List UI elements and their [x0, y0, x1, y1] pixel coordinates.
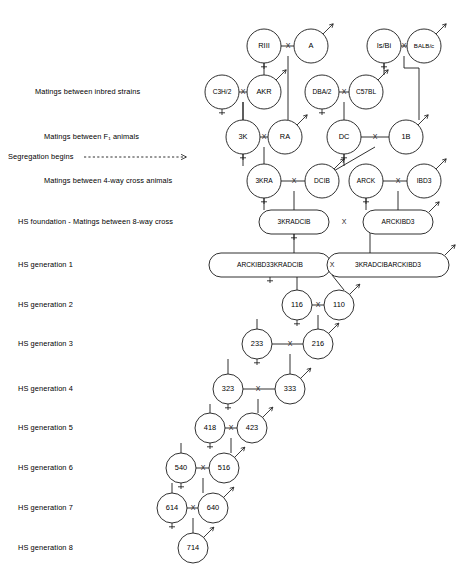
cross-symbol-x-614-640: X	[191, 504, 196, 511]
node-IsBi[interactable]: Is/Bi	[367, 29, 401, 69]
male-symbol	[429, 202, 439, 212]
node-A[interactable]: A	[294, 24, 333, 63]
node-DBA2[interactable]: DBA/2	[305, 75, 339, 115]
male-symbol	[350, 284, 360, 294]
node-116[interactable]: 116	[282, 290, 312, 326]
node-label: AKR	[256, 87, 271, 96]
male-symbol	[235, 447, 245, 457]
node-614[interactable]: 614	[157, 493, 187, 529]
node-label: ARCKIBD3	[382, 218, 415, 225]
row-label-gen7: HS generation 7	[18, 503, 73, 512]
node-IBD3[interactable]: IBD3	[407, 159, 446, 198]
cross-symbol-x-dc-1b: X	[373, 133, 378, 140]
node-label: ARCKIBD33KRADCIB	[237, 261, 304, 268]
cross-symbol-x-isbi-balbc: X	[402, 42, 407, 49]
node-label: Is/Bi	[377, 41, 392, 50]
cross-symbol-x-323-333: X	[256, 385, 261, 392]
row-label-gen5: HS generation 5	[18, 423, 73, 432]
cross-symbol-x-c3h2-akr: X	[241, 88, 246, 95]
cross-symbol-x-riii-a: X	[286, 42, 291, 49]
node-label: 516	[218, 463, 230, 472]
node-233[interactable]: 233	[242, 329, 272, 365]
node-323[interactable]: 323	[213, 374, 243, 410]
node-label: IBD3	[417, 177, 432, 184]
male-symbol	[204, 527, 214, 537]
node-label: 423	[246, 423, 258, 432]
node-3K[interactable]: 3K	[226, 120, 260, 160]
node-1B[interactable]: 1B	[389, 115, 428, 154]
node-516[interactable]: 516	[209, 447, 245, 483]
cross-symbol-x-418-423: X	[229, 424, 234, 431]
cross-symbol-x-gen1: X	[330, 261, 335, 268]
male-symbol	[297, 115, 307, 125]
figure-canvas: RIIIAIs/BiBALB/cC3H/2AKRDBA/2C57BL3KRADC…	[0, 0, 458, 584]
node-label: 216	[312, 339, 324, 348]
node-label: 540	[175, 463, 187, 472]
node-333[interactable]: 333	[275, 368, 311, 404]
node-3KRADCIB[interactable]: 3KRADCIB	[259, 210, 329, 240]
cross-symbol-x-233-216: X	[288, 340, 293, 347]
node-3KRA[interactable]: 3KRA	[247, 164, 281, 204]
node-BALBc[interactable]: BALB/c	[407, 24, 446, 63]
row-label-fourway: Matings between 4-way cross animals	[44, 176, 172, 185]
row-label-segregation: Segregation begins	[8, 152, 74, 161]
node-label: DCIB	[314, 177, 330, 184]
node-ARCKIBD3[interactable]: ARCKIBD3	[363, 202, 439, 234]
row-label-gen4: HS generation 4	[18, 384, 73, 393]
cross-symbol-x-3kra-dcib: X	[292, 177, 297, 184]
node-714[interactable]: 714	[178, 527, 214, 563]
node-DCIB[interactable]: DCIB	[305, 159, 344, 198]
node-label: C3H/2	[213, 88, 232, 95]
node-label: 323	[222, 384, 234, 393]
node-label: RA	[280, 132, 290, 141]
node-540[interactable]: 540	[166, 453, 196, 489]
node-label: BALB/c	[414, 42, 434, 49]
male-symbol	[436, 24, 446, 34]
cross-symbol-x-116-110: X	[316, 301, 321, 308]
node-C57BL[interactable]: C57BL	[349, 70, 388, 109]
node-216[interactable]: 216	[303, 323, 339, 359]
row-label-inbred: Matings between inbred strains	[35, 87, 140, 96]
male-symbol	[224, 487, 234, 497]
row-label-gen8: HS generation 8	[18, 543, 73, 552]
node-ARCKIBD33KRADCIB[interactable]: ARCKIBD33KRADCIB	[209, 253, 331, 283]
node-423[interactable]: 423	[237, 407, 273, 443]
node-ARCK[interactable]: ARCK	[349, 164, 383, 204]
node-AKR[interactable]: AKR	[247, 70, 286, 109]
cross-symbol-x-540-516: X	[201, 464, 206, 471]
node-RA[interactable]: RA	[268, 115, 307, 154]
node-label: 714	[187, 543, 199, 552]
male-symbol	[301, 368, 311, 378]
row-label-f1: Matings between F₁ animals	[44, 132, 139, 141]
node-label: 116	[291, 300, 303, 309]
node-DC[interactable]: DC	[327, 120, 361, 160]
cross-symbol-x-dba2-c57bl: X	[342, 88, 347, 95]
node-RIII[interactable]: RIII	[247, 29, 281, 69]
male-symbol	[276, 70, 286, 80]
node-3KRADCIBARCKIBD3[interactable]: 3KRADCIBARCKIBD3	[327, 245, 455, 277]
row-label-gen2: HS generation 2	[18, 300, 73, 309]
male-symbol	[323, 24, 333, 34]
node-label: 333	[284, 384, 296, 393]
cross-symbol-x-3k-ra: X	[262, 133, 267, 140]
male-symbol	[378, 70, 388, 80]
row-label-gen6: HS generation 6	[18, 463, 73, 472]
male-symbol	[436, 159, 446, 169]
node-110[interactable]: 110	[324, 284, 360, 320]
male-symbol	[418, 115, 428, 125]
node-C3H2[interactable]: C3H/2	[205, 75, 239, 115]
cross-symbol-x-8way: X	[342, 218, 347, 225]
node-label: 3KRADCIB	[278, 218, 312, 225]
node-418[interactable]: 418	[195, 413, 225, 449]
node-label: DBA/2	[312, 88, 331, 95]
node-label: 110	[333, 300, 345, 309]
node-label: 3KRADCIBARCKIBD3	[355, 261, 421, 268]
node-label: C57BL	[356, 88, 376, 95]
node-label: 614	[166, 503, 178, 512]
male-symbol	[445, 245, 455, 255]
node-label: 233	[251, 339, 263, 348]
node-label: DC	[339, 132, 350, 141]
row-label-gen3: HS generation 3	[18, 339, 73, 348]
row-label-hsfound: HS foundation - Matings between 8-way cr…	[18, 217, 173, 226]
node-label: ARCK	[357, 177, 376, 184]
